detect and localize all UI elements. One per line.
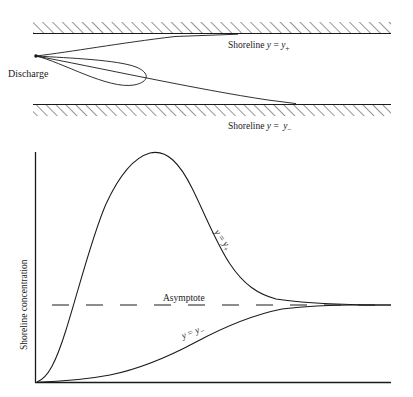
plume-core-loop <box>36 56 146 85</box>
discharge-label: Discharge <box>8 68 49 79</box>
lower-shoreline-label-prefix: Shoreline <box>228 121 267 131</box>
curve-label-y-minus-subscript: − <box>199 326 206 336</box>
plume-upper-arm <box>36 34 238 56</box>
discharge-plume-plan-view: Shoreline y = y+ Shoreline y = y− Discha… <box>8 22 391 134</box>
curve-label-y-minus: y = y− <box>179 323 206 343</box>
curve-y-plus <box>37 152 391 382</box>
figure-root: Shoreline y = y+ Shoreline y = y− Discha… <box>0 0 413 397</box>
lower-shoreline-label-eq: = <box>271 121 281 131</box>
y-axis-label: Shoreline concentration <box>19 259 29 350</box>
upper-shoreline-label-eq: = <box>271 40 281 50</box>
shoreline-concentration-plot: Asymptote y = y+ y = y− Shoreline concen… <box>19 152 391 383</box>
lower-shoreline-label-subscript: − <box>287 125 291 134</box>
upper-shoreline-hatching <box>33 22 391 33</box>
curve-label-y-plus: y = y+ <box>210 227 234 254</box>
curve-y-minus <box>37 305 391 382</box>
asymptote-label: Asymptote <box>163 293 205 303</box>
upper-shoreline-label: Shoreline y = y+ <box>228 40 290 53</box>
upper-shoreline-label-subscript: + <box>285 44 289 53</box>
discharge-point-marker <box>34 54 38 58</box>
lower-shoreline-hatching <box>33 105 391 116</box>
lower-shoreline-label: Shoreline y = y− <box>228 121 292 134</box>
plume-lower-arm <box>36 56 296 104</box>
scientific-figure: Shoreline y = y+ Shoreline y = y− Discha… <box>0 0 413 397</box>
upper-shoreline-label-prefix: Shoreline <box>228 40 267 50</box>
